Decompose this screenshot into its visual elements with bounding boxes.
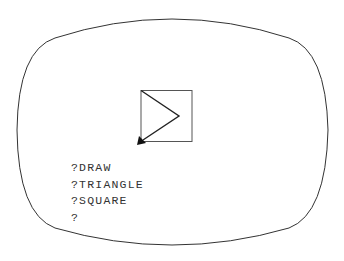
command-console: ?DRAW ?TRIANGLE ?SQUARE ? bbox=[71, 160, 144, 226]
square-shape bbox=[141, 91, 192, 142]
crt-screen-frame bbox=[0, 0, 344, 261]
console-prompt[interactable]: ? bbox=[71, 210, 144, 227]
console-line-draw: ?DRAW bbox=[71, 160, 144, 177]
console-line-square: ?SQUARE bbox=[71, 193, 144, 210]
console-line-triangle: ?TRIANGLE bbox=[71, 177, 144, 194]
triangle-shape bbox=[141, 91, 179, 141]
screen-border bbox=[17, 19, 328, 245]
